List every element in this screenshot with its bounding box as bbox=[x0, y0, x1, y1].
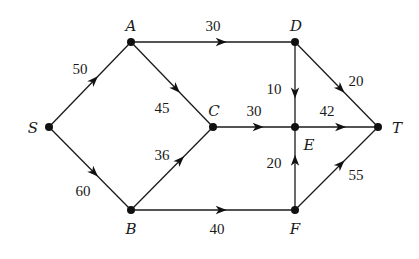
node-label: S bbox=[28, 119, 38, 137]
node-dot bbox=[45, 123, 53, 131]
edge-B-C: 36 bbox=[131, 127, 213, 210]
node-T: T bbox=[374, 119, 403, 137]
edge-line bbox=[49, 42, 131, 127]
node-dot bbox=[291, 38, 299, 46]
edge-weight-label: 30 bbox=[206, 18, 221, 34]
node-label: F bbox=[289, 220, 301, 238]
node-label: A bbox=[124, 17, 137, 35]
edge-S-A: 50 bbox=[49, 42, 131, 127]
edge-D-E: 10 bbox=[267, 42, 300, 127]
edge-A-C: 45 bbox=[131, 42, 213, 127]
edge-S-B: 60 bbox=[49, 127, 131, 210]
node-dot bbox=[127, 38, 135, 46]
edge-E-T: 42 bbox=[295, 103, 378, 131]
node-A: A bbox=[124, 17, 137, 46]
node-label: B bbox=[124, 220, 136, 238]
node-S: S bbox=[28, 119, 53, 137]
edge-weight-label: 60 bbox=[76, 183, 91, 199]
node-label: C bbox=[208, 102, 220, 120]
node-dot bbox=[374, 123, 382, 131]
node-label: D bbox=[289, 17, 302, 35]
edge-weight-label: 10 bbox=[267, 81, 282, 97]
edge-weight-label: 45 bbox=[155, 100, 170, 116]
flow-network-diagram: 506030453640301020422055 SABCDEFT bbox=[0, 0, 419, 259]
node-dot bbox=[209, 123, 217, 131]
edge-weight-label: 42 bbox=[320, 103, 335, 119]
node-dot bbox=[127, 206, 135, 214]
node-F: F bbox=[289, 206, 301, 238]
node-dot bbox=[291, 206, 299, 214]
node-label: E bbox=[303, 136, 315, 154]
edge-weight-label: 36 bbox=[155, 147, 171, 163]
edge-weight-label: 40 bbox=[210, 221, 225, 237]
edge-D-T: 20 bbox=[295, 42, 378, 127]
edge-weight-label: 55 bbox=[349, 167, 364, 183]
edge-B-F: 40 bbox=[131, 206, 295, 237]
edge-C-E: 30 bbox=[213, 103, 295, 131]
edge-weight-label: 20 bbox=[267, 155, 282, 171]
node-label: T bbox=[392, 119, 403, 137]
edge-weight-label: 30 bbox=[247, 103, 262, 119]
edge-line bbox=[131, 127, 213, 210]
edge-F-E: 20 bbox=[267, 127, 300, 210]
edge-weight-label: 50 bbox=[73, 61, 88, 77]
edge-weight-label: 20 bbox=[349, 73, 364, 89]
edge-line bbox=[295, 42, 378, 127]
edge-A-D: 30 bbox=[131, 18, 295, 46]
edge-line bbox=[131, 42, 213, 127]
node-dot bbox=[291, 123, 299, 131]
node-B: B bbox=[124, 206, 136, 238]
